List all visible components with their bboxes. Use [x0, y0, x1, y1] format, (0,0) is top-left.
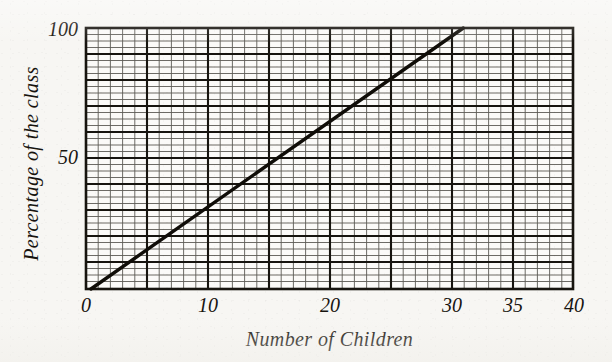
- x-tick-label-0: 0: [66, 294, 106, 317]
- chart-figure: Percentage of the class 100 50: [0, 0, 612, 362]
- x-axis-title: Number of Children: [86, 328, 573, 351]
- x-tick-label-20: 20: [310, 294, 350, 317]
- x-tick-label-10: 10: [188, 294, 228, 317]
- x-tick-label-30: 30: [432, 294, 472, 317]
- x-tick-label-40: 40: [554, 294, 594, 317]
- x-tick-label-35: 35: [493, 294, 533, 317]
